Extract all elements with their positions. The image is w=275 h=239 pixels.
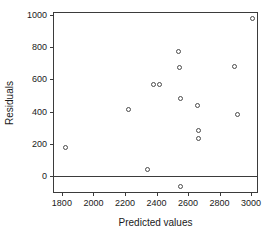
x-tick-mark bbox=[62, 192, 63, 196]
x-tick-mark bbox=[125, 192, 126, 196]
y-tick-mark bbox=[50, 112, 54, 113]
x-tick-mark bbox=[220, 192, 221, 196]
x-tick-label: 3000 bbox=[241, 199, 261, 208]
data-point bbox=[145, 167, 150, 172]
data-point bbox=[178, 184, 183, 189]
data-point bbox=[177, 65, 182, 70]
data-point bbox=[250, 16, 255, 21]
y-tick-mark bbox=[50, 79, 54, 80]
y-tick-mark bbox=[50, 15, 54, 16]
data-point bbox=[63, 145, 68, 150]
x-axis-title: Predicted values bbox=[53, 218, 258, 228]
y-tick-label: 400 bbox=[32, 107, 47, 116]
y-tick-label: 800 bbox=[32, 42, 47, 51]
x-tick-label: 2600 bbox=[178, 199, 198, 208]
y-tick-label: 200 bbox=[32, 139, 47, 148]
x-tick-label: 2400 bbox=[146, 199, 166, 208]
x-tick-mark bbox=[188, 192, 189, 196]
x-tick-label: 1800 bbox=[52, 199, 72, 208]
y-tick-label: 1000 bbox=[27, 10, 47, 19]
y-axis-title: Residuals bbox=[4, 12, 16, 193]
x-tick-mark bbox=[251, 192, 252, 196]
scatter-plot: Residuals 02004006008001000 180020002200… bbox=[0, 0, 275, 239]
data-point bbox=[126, 107, 131, 112]
x-tick-label: 2800 bbox=[210, 199, 230, 208]
x-tick-mark bbox=[93, 192, 94, 196]
data-point bbox=[195, 103, 200, 108]
data-point bbox=[196, 136, 201, 141]
x-tick-label: 2000 bbox=[83, 199, 103, 208]
data-point bbox=[157, 82, 162, 87]
data-point bbox=[178, 96, 183, 101]
data-point bbox=[235, 112, 240, 117]
x-axis-title-text: Predicted values bbox=[119, 217, 193, 228]
x-tick-mark bbox=[157, 192, 158, 196]
data-point bbox=[196, 128, 201, 133]
y-tick-label: 600 bbox=[32, 75, 47, 84]
plot-area: 02004006008001000 1800200022002400260028… bbox=[53, 12, 258, 193]
data-point bbox=[151, 82, 156, 87]
data-point bbox=[232, 64, 237, 69]
x-tick-label: 2200 bbox=[115, 199, 135, 208]
y-tick-mark bbox=[50, 176, 54, 177]
zero-reference-line bbox=[54, 176, 257, 177]
data-point bbox=[176, 49, 181, 54]
y-tick-mark bbox=[50, 144, 54, 145]
y-tick-label: 0 bbox=[42, 172, 47, 181]
y-axis-title-text: Residuals bbox=[5, 81, 15, 125]
y-tick-mark bbox=[50, 47, 54, 48]
